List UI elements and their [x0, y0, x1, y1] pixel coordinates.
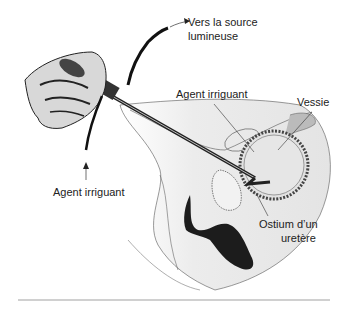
- label-light-source: Vers la source: [188, 16, 258, 28]
- label-ureter-line2: uretère: [281, 232, 316, 244]
- bladder: [240, 131, 308, 199]
- label-ureter-ostium: Ostium d’un: [259, 218, 318, 230]
- cystoscopy-figure: Vers la source lumineuse Agent irriguant…: [0, 0, 346, 309]
- label-irrigant-top: Agent irriguant: [176, 88, 248, 100]
- label-light-source-line2: lumineuse: [188, 30, 238, 42]
- light-cable: [128, 18, 190, 85]
- label-irrigant-left: Agent irriguant: [53, 186, 125, 198]
- divider-rule: [18, 299, 330, 301]
- anatomy-illustration: [0, 0, 346, 309]
- label-bladder: Vessie: [297, 96, 329, 108]
